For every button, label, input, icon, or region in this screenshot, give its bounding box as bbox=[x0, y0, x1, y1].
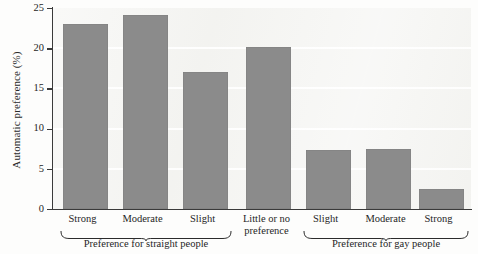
x-axis-line bbox=[52, 209, 472, 210]
bar-series bbox=[53, 8, 471, 209]
bar-slight-gay bbox=[306, 150, 351, 210]
bar-strong-straight bbox=[63, 24, 108, 209]
bar-strong-gay bbox=[419, 189, 464, 209]
y-tick-20 bbox=[47, 48, 52, 49]
y-axis-title: Automatic preference (%) bbox=[10, 10, 22, 210]
y-tick-label-25: 25 bbox=[24, 2, 44, 14]
y-tick-25 bbox=[47, 8, 52, 9]
bar-little-or-no bbox=[246, 47, 291, 209]
x-label-line2: preference bbox=[224, 225, 309, 237]
bar-slight-straight bbox=[183, 72, 228, 209]
y-tick-10 bbox=[47, 129, 52, 130]
y-tick-0 bbox=[47, 209, 52, 210]
y-tick-label-5: 5 bbox=[24, 163, 44, 175]
y-tick-label-20: 20 bbox=[24, 42, 44, 54]
y-axis-line bbox=[52, 7, 53, 210]
y-tick-5 bbox=[47, 169, 52, 170]
bar-moderate-straight bbox=[123, 15, 168, 209]
bar-chart-figure: Automatic preference (%) 25 20 15 10 5 bbox=[0, 0, 478, 254]
bar-moderate-gay bbox=[366, 149, 411, 209]
x-label-line1: Strong bbox=[396, 213, 478, 225]
y-tick-15 bbox=[47, 88, 52, 89]
group-label-gay: Preference for gay people bbox=[303, 238, 469, 249]
y-tick-label-10: 10 bbox=[24, 122, 44, 134]
group-label-straight: Preference for straight people bbox=[60, 238, 232, 249]
y-tick-label-15: 15 bbox=[24, 82, 44, 94]
x-label-strong-gay: Strong bbox=[396, 213, 478, 225]
